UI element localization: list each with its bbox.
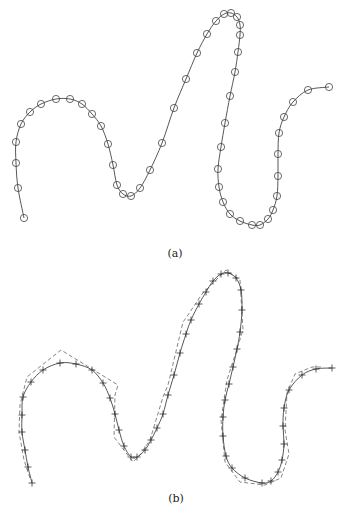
smooth-curve-b [22,273,332,483]
cross-marker-icon [222,397,229,404]
cross-marker-icon [116,427,123,434]
cross-marker-icon [112,411,119,418]
cross-marker-icon [239,307,246,314]
cross-marker-icon [218,271,225,278]
cross-marker-icon [177,350,184,357]
panel-a [12,9,332,228]
cross-marker-icon [160,411,167,418]
cross-marker-icon [242,475,249,482]
cross-marker-icon [100,380,107,387]
cross-marker-icon [20,394,27,401]
panel-b [19,270,336,487]
cross-marker-icon [57,360,64,367]
smooth-curve-a [16,13,329,226]
cross-marker-icon [259,480,266,487]
cross-marker-icon [220,414,227,421]
cross-marker-icon [171,372,178,379]
cross-marker-icon [220,433,227,440]
cross-marker-icon [237,329,244,336]
cross-marker-icon [19,429,26,436]
cross-marker-icon [196,301,203,308]
cross-marker-icon [40,367,47,374]
cross-marker-icon [313,366,320,373]
cross-marker-icon [286,387,293,394]
cross-marker-icon [165,392,172,399]
cross-marker-icon [121,443,128,450]
caption-b: (b) [168,492,184,505]
cross-marker-icon [107,395,114,402]
cross-marker-icon [73,361,80,368]
cross-marker-icon [203,289,210,296]
caption-a: (a) [167,247,182,260]
dashed-control-polygon-b [19,270,322,485]
cross-marker-icon [329,365,336,372]
cross-marker-icon [279,457,286,464]
cross-marker-icon [234,346,241,353]
cross-marker-icon [188,317,195,324]
cross-marker-icon [275,469,282,476]
cross-markers-b [19,270,336,487]
circle-markers-a [12,9,332,228]
cross-marker-icon [134,454,141,461]
cross-marker-icon [223,453,230,460]
cross-marker-icon [238,287,245,294]
cross-marker-icon [183,331,190,338]
cross-marker-icon [148,437,155,444]
cross-marker-icon [281,441,288,448]
cross-marker-icon [29,480,36,487]
